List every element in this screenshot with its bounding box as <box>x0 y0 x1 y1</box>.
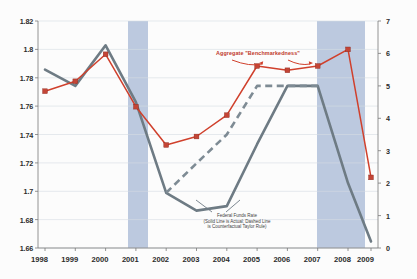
x-axis-tick-2005: 2005 <box>243 255 260 264</box>
x-axis-tick-2006: 2006 <box>273 255 290 264</box>
x-axis-tick-1999: 1999 <box>61 255 78 264</box>
y-axis-right-tick-0: 0 <box>386 244 390 253</box>
y-axis-right-tick-6: 6 <box>386 49 390 58</box>
x-axis-tick-2009: 2009 <box>357 255 374 264</box>
y-axis-left-tick-1.76: 1.76 <box>2 102 33 111</box>
y-axis-right-tick-4: 4 <box>386 114 390 123</box>
y-axis-left-tick-1.78: 1.78 <box>2 74 33 83</box>
x-axis-tick-2007: 2007 <box>304 255 321 264</box>
y-axis-right-tick-1: 1 <box>386 212 390 221</box>
x-axis-tick-1998: 1998 <box>31 255 48 264</box>
y-axis-left-tick-1.80: 1.8 <box>2 45 33 54</box>
x-axis-tick-2003: 2003 <box>183 255 200 264</box>
y-axis-right-tick-3: 3 <box>386 147 390 156</box>
y-axis-left-tick-1.82: 1.82 <box>2 17 33 26</box>
y-axis-left-tick-1.68: 1.68 <box>2 216 33 225</box>
y-axis-left-ticks <box>35 21 38 248</box>
x-axis-tick-2000: 2000 <box>92 255 109 264</box>
y-axis-left-tick-1.70: 1.7 <box>2 187 33 196</box>
x-axis-ticks <box>45 248 371 251</box>
y-axis-right-tick-5: 5 <box>386 82 390 91</box>
x-axis-tick-2008: 2008 <box>334 255 351 264</box>
chart-canvas <box>0 0 417 279</box>
x-axis-tick-2004: 2004 <box>213 255 230 264</box>
y-axis-left-tick-1.72: 1.72 <box>2 159 33 168</box>
y-axis-right-tick-7: 7 <box>386 17 390 26</box>
x-axis-tick-2002: 2002 <box>152 255 169 264</box>
chart-figure: 1.82 1.8 1.78 1.76 1.74 1.72 1.7 1.68 1.… <box>0 0 417 279</box>
x-axis-tick-2001: 2001 <box>122 255 139 264</box>
y-axis-right-tick-2: 2 <box>386 179 390 188</box>
y-axis-right-ticks <box>378 21 381 248</box>
annotation-leader-lines <box>232 60 313 65</box>
y-axis-left-tick-1.74: 1.74 <box>2 131 33 140</box>
y-axis-left-tick-1.66: 1.66 <box>2 244 33 253</box>
